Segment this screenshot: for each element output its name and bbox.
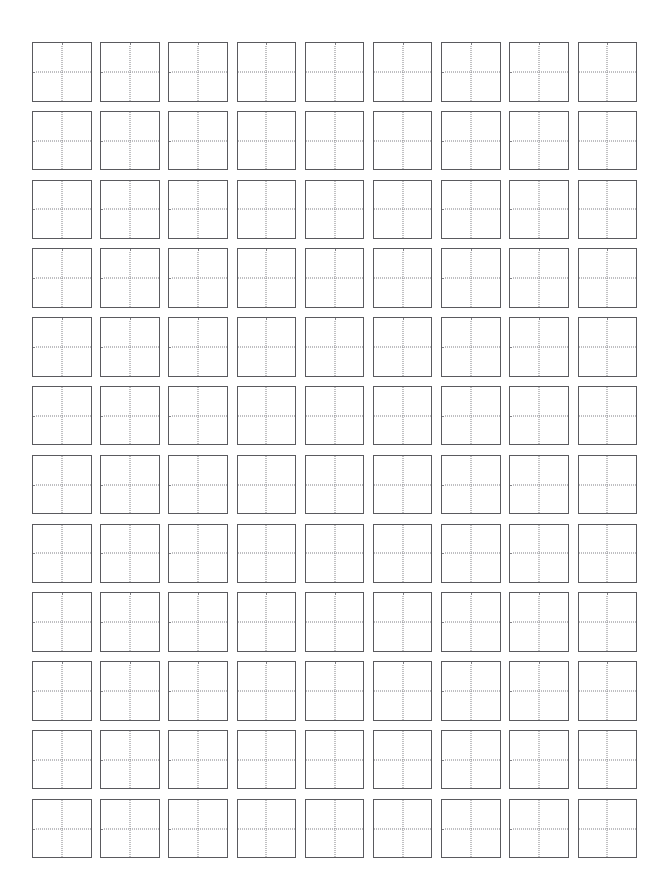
- practice-cell[interactable]: [509, 248, 569, 308]
- practice-cell[interactable]: [100, 661, 160, 721]
- practice-cell[interactable]: [237, 524, 297, 584]
- practice-cell[interactable]: [168, 455, 228, 515]
- practice-cell[interactable]: [305, 317, 365, 377]
- practice-cell[interactable]: [32, 661, 92, 721]
- practice-cell[interactable]: [509, 111, 569, 171]
- practice-cell[interactable]: [305, 524, 365, 584]
- practice-cell[interactable]: [305, 592, 365, 652]
- practice-cell[interactable]: [509, 661, 569, 721]
- practice-cell[interactable]: [32, 386, 92, 446]
- practice-cell[interactable]: [578, 42, 638, 102]
- practice-cell[interactable]: [168, 799, 228, 859]
- practice-cell[interactable]: [237, 42, 297, 102]
- practice-cell[interactable]: [168, 180, 228, 240]
- practice-cell[interactable]: [441, 386, 501, 446]
- practice-cell[interactable]: [168, 592, 228, 652]
- practice-cell[interactable]: [373, 592, 433, 652]
- practice-cell[interactable]: [509, 386, 569, 446]
- practice-cell[interactable]: [373, 730, 433, 790]
- practice-cell[interactable]: [100, 799, 160, 859]
- practice-cell[interactable]: [441, 661, 501, 721]
- practice-cell[interactable]: [168, 248, 228, 308]
- practice-cell[interactable]: [305, 455, 365, 515]
- practice-cell[interactable]: [578, 180, 638, 240]
- practice-cell[interactable]: [578, 111, 638, 171]
- practice-cell[interactable]: [578, 661, 638, 721]
- practice-cell[interactable]: [237, 730, 297, 790]
- practice-cell[interactable]: [237, 248, 297, 308]
- practice-cell[interactable]: [237, 592, 297, 652]
- practice-cell[interactable]: [32, 180, 92, 240]
- practice-cell[interactable]: [32, 248, 92, 308]
- practice-cell[interactable]: [305, 730, 365, 790]
- practice-cell[interactable]: [237, 799, 297, 859]
- practice-cell[interactable]: [305, 799, 365, 859]
- practice-cell[interactable]: [509, 42, 569, 102]
- practice-cell[interactable]: [509, 592, 569, 652]
- practice-cell[interactable]: [32, 524, 92, 584]
- practice-cell[interactable]: [32, 111, 92, 171]
- practice-cell[interactable]: [168, 317, 228, 377]
- practice-cell[interactable]: [168, 730, 228, 790]
- practice-cell[interactable]: [441, 317, 501, 377]
- practice-cell[interactable]: [305, 42, 365, 102]
- practice-cell[interactable]: [168, 386, 228, 446]
- practice-cell[interactable]: [305, 661, 365, 721]
- practice-cell[interactable]: [168, 661, 228, 721]
- practice-cell[interactable]: [441, 730, 501, 790]
- practice-cell[interactable]: [100, 248, 160, 308]
- practice-cell[interactable]: [509, 180, 569, 240]
- practice-cell[interactable]: [237, 386, 297, 446]
- practice-cell[interactable]: [32, 799, 92, 859]
- practice-cell[interactable]: [373, 524, 433, 584]
- practice-cell[interactable]: [578, 455, 638, 515]
- practice-cell[interactable]: [578, 248, 638, 308]
- practice-cell[interactable]: [305, 180, 365, 240]
- practice-cell[interactable]: [32, 42, 92, 102]
- practice-cell[interactable]: [578, 799, 638, 859]
- practice-cell[interactable]: [305, 386, 365, 446]
- practice-cell[interactable]: [373, 661, 433, 721]
- practice-cell[interactable]: [578, 730, 638, 790]
- practice-cell[interactable]: [100, 455, 160, 515]
- practice-cell[interactable]: [373, 386, 433, 446]
- practice-cell[interactable]: [578, 592, 638, 652]
- practice-cell[interactable]: [373, 799, 433, 859]
- practice-cell[interactable]: [237, 180, 297, 240]
- practice-cell[interactable]: [578, 524, 638, 584]
- practice-cell[interactable]: [509, 455, 569, 515]
- practice-cell[interactable]: [373, 455, 433, 515]
- practice-cell[interactable]: [441, 111, 501, 171]
- practice-cell[interactable]: [305, 111, 365, 171]
- practice-cell[interactable]: [237, 661, 297, 721]
- practice-cell[interactable]: [441, 455, 501, 515]
- practice-cell[interactable]: [32, 730, 92, 790]
- practice-cell[interactable]: [100, 524, 160, 584]
- practice-cell[interactable]: [100, 180, 160, 240]
- practice-cell[interactable]: [441, 592, 501, 652]
- practice-cell[interactable]: [168, 111, 228, 171]
- practice-cell[interactable]: [100, 317, 160, 377]
- practice-cell[interactable]: [441, 180, 501, 240]
- practice-cell[interactable]: [237, 455, 297, 515]
- practice-cell[interactable]: [509, 524, 569, 584]
- practice-cell[interactable]: [373, 42, 433, 102]
- practice-cell[interactable]: [578, 386, 638, 446]
- practice-cell[interactable]: [509, 317, 569, 377]
- practice-cell[interactable]: [441, 524, 501, 584]
- practice-cell[interactable]: [100, 592, 160, 652]
- practice-cell[interactable]: [237, 317, 297, 377]
- practice-cell[interactable]: [32, 592, 92, 652]
- practice-cell[interactable]: [441, 42, 501, 102]
- practice-cell[interactable]: [373, 180, 433, 240]
- practice-cell[interactable]: [509, 730, 569, 790]
- practice-cell[interactable]: [168, 524, 228, 584]
- practice-cell[interactable]: [441, 799, 501, 859]
- practice-cell[interactable]: [441, 248, 501, 308]
- practice-cell[interactable]: [100, 42, 160, 102]
- practice-cell[interactable]: [509, 799, 569, 859]
- practice-cell[interactable]: [373, 111, 433, 171]
- practice-cell[interactable]: [32, 317, 92, 377]
- practice-cell[interactable]: [373, 317, 433, 377]
- practice-cell[interactable]: [100, 730, 160, 790]
